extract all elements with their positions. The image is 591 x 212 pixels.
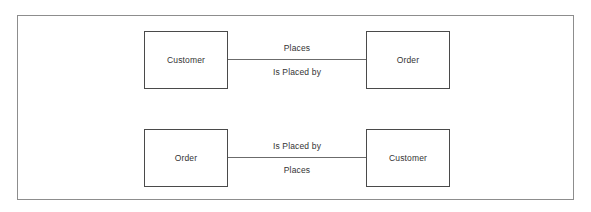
- relationship-row: Order Is Placed by Places Customer: [0, 129, 591, 187]
- relationship-row: Customer Places Is Placed by Order: [0, 31, 591, 89]
- relationship-connector-line: [228, 59, 366, 60]
- entity-box-left[interactable]: Order: [144, 129, 228, 187]
- relationship-label-below: Is Placed by: [228, 68, 366, 77]
- entity-label: Customer: [389, 154, 427, 163]
- entity-label: Order: [175, 154, 197, 163]
- relationship-label-above: Is Placed by: [228, 142, 366, 151]
- relationship-label-below: Places: [228, 166, 366, 175]
- relationship-label-above: Places: [228, 44, 366, 53]
- entity-box-right[interactable]: Order: [366, 31, 450, 89]
- entity-label: Order: [397, 56, 419, 65]
- entity-box-left[interactable]: Customer: [144, 31, 228, 89]
- entity-box-right[interactable]: Customer: [366, 129, 450, 187]
- entity-label: Customer: [167, 56, 205, 65]
- relationship-connector-line: [228, 157, 366, 158]
